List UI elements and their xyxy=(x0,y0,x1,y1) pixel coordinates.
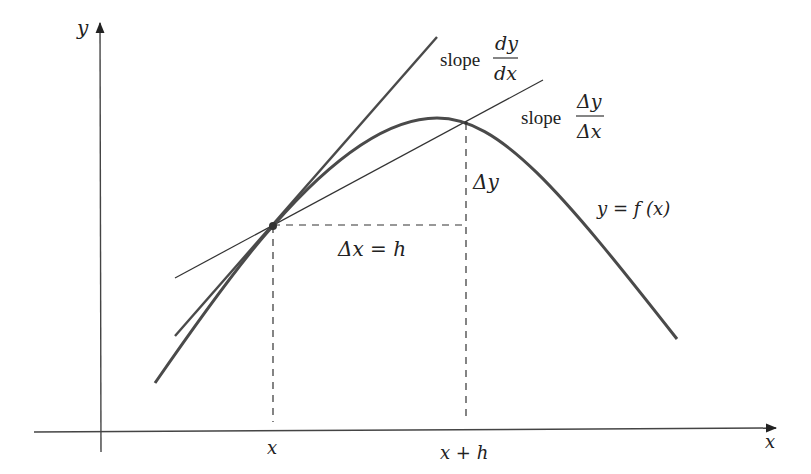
tick-label-x-plus-h: x + h xyxy=(440,442,488,463)
secant-slope-word: slope xyxy=(521,107,561,128)
secant-slope-denominator: Δx xyxy=(576,120,602,142)
x-axis-label: x xyxy=(765,431,775,452)
point-x xyxy=(269,222,277,230)
tangent-slope-label: slope dy dx xyxy=(440,32,518,84)
derivative-diagram: y x x x + h Δx = h Δy y = f (x) slope dy… xyxy=(0,0,811,474)
tangent-slope-word: slope xyxy=(440,49,480,70)
function-curve xyxy=(155,118,677,383)
point-x-plus-h xyxy=(464,121,468,125)
tangent-line xyxy=(175,37,437,336)
secant-slope-numerator: Δy xyxy=(576,90,602,112)
y-axis xyxy=(100,23,101,452)
x-axis xyxy=(34,428,776,432)
delta-x-label: Δx = h xyxy=(337,237,406,261)
delta-y-label: Δy xyxy=(472,170,499,194)
tangent-slope-numerator: dy xyxy=(495,32,518,54)
curve-label: y = f (x) xyxy=(596,198,670,219)
y-axis-label: y xyxy=(76,16,89,40)
tick-label-x: x xyxy=(267,437,277,458)
tangent-slope-denominator: dx xyxy=(494,62,517,84)
secant-slope-label: slope Δy Δx xyxy=(521,90,604,142)
